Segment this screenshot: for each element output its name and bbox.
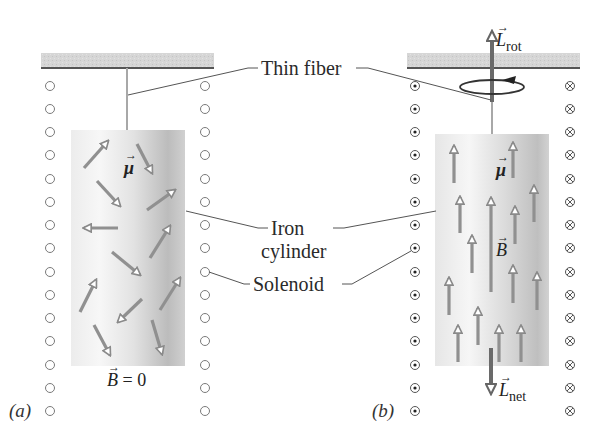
vector-arrow-icon: → bbox=[497, 150, 509, 165]
vector-arrow-icon: → bbox=[500, 370, 512, 385]
leader-iron-a bbox=[186, 211, 268, 228]
mu-vector-label-a: →μ bbox=[124, 158, 134, 179]
panel-a bbox=[41, 53, 214, 416]
l-net-label: →Lnet bbox=[499, 380, 526, 405]
rotation-arrowhead bbox=[502, 76, 516, 84]
label-solenoid: Solenoid bbox=[250, 273, 327, 295]
panel-b bbox=[407, 32, 580, 416]
panel-tag-b: (b) bbox=[372, 400, 394, 422]
vector-arrow-icon: → bbox=[108, 360, 120, 375]
l-rot-label: →Lrot bbox=[496, 30, 522, 55]
field-label-a: →B = 0 bbox=[107, 370, 146, 391]
vector-arrow-icon: → bbox=[497, 230, 509, 245]
vector-arrow-icon: → bbox=[125, 148, 137, 163]
leader-iron-b bbox=[333, 211, 436, 228]
solenoid-coils-in-b bbox=[566, 82, 575, 416]
leader-solenoid-a bbox=[209, 272, 254, 284]
label-thin-fiber: Thin fiber bbox=[258, 57, 345, 79]
field-label-b: →B bbox=[496, 240, 507, 261]
panel-tag-a: (a) bbox=[9, 400, 31, 422]
solenoid-coils-out-b bbox=[411, 82, 420, 416]
leader-thin-fiber-a bbox=[128, 68, 258, 95]
mu-vector-label-b: →μ bbox=[496, 160, 506, 181]
ceiling-a bbox=[41, 53, 214, 67]
einstein-de-haas-diagram: Thin fiber Iron cylinder Solenoid →μ →B … bbox=[0, 0, 604, 444]
leader-solenoid-b bbox=[342, 251, 411, 284]
leader-thin-fiber-b bbox=[356, 68, 491, 100]
label-cylinder: cylinder bbox=[258, 240, 330, 262]
label-iron: Iron bbox=[268, 217, 307, 239]
vector-arrow-icon: → bbox=[497, 20, 509, 35]
